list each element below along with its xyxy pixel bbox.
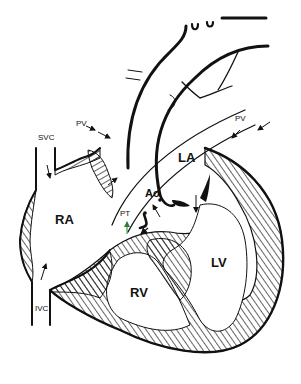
label-pv-left: PV <box>76 119 87 128</box>
label-lv: LV <box>211 255 227 270</box>
label-svc: SVC <box>38 133 55 142</box>
label-rv: RV <box>130 285 148 300</box>
label-ao: Ao <box>145 187 160 199</box>
pv-left-arrow <box>98 132 110 138</box>
la-arrow <box>232 130 240 138</box>
label-ra: RA <box>55 212 74 227</box>
label-la: LA <box>178 150 196 165</box>
pv-right-arrow <box>258 122 270 130</box>
ivc-arrow <box>41 264 46 280</box>
ao-arrow <box>153 205 160 217</box>
label-pv-right: PV <box>235 114 246 123</box>
pv-left-arrow-2 <box>86 126 95 130</box>
label-pt: PT <box>120 209 130 218</box>
label-ivc: IVC <box>35 304 49 313</box>
svc-arrow <box>47 165 50 178</box>
heart-diagram: SVC PV PV RA LA Ao PT RV LV IVC <box>0 0 301 384</box>
ventricular-myocardium <box>50 148 283 352</box>
